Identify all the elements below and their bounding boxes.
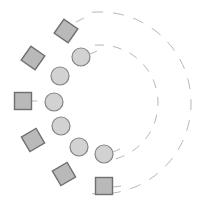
square-node: [21, 46, 45, 70]
circle-node: [45, 93, 63, 111]
connector-line: [76, 18, 84, 22]
circle-node: [52, 117, 70, 135]
square-node: [96, 178, 113, 195]
radial-shapes-diagram: [0, 0, 202, 207]
square-node: [52, 162, 75, 185]
connector-line: [113, 186, 121, 187]
connector-line: [113, 149, 120, 152]
inner-arc: [95, 45, 158, 161]
dashed-arcs: [92, 12, 191, 194]
circle-node: [72, 48, 90, 66]
circle-nodes: [45, 48, 113, 163]
circle-node: [70, 138, 88, 156]
square-node: [21, 128, 44, 151]
outer-arc: [92, 12, 191, 194]
circle-node: [51, 67, 69, 85]
square-node: [15, 93, 32, 110]
circle-node: [95, 145, 113, 163]
square-node: [54, 19, 78, 43]
connector-line: [90, 51, 97, 54]
